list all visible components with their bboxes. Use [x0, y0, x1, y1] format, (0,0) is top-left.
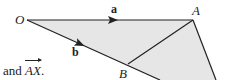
caption-vector-text: AX	[25, 63, 41, 78]
caption-prefix: and	[3, 63, 25, 78]
caption-suffix: .	[41, 63, 44, 78]
caption-text: and AX.	[3, 63, 44, 79]
caption-vector: AX	[25, 63, 41, 78]
vector-overline-arrow-icon	[25, 60, 41, 61]
vector-label-b: b	[72, 45, 79, 59]
point-label-B: B	[119, 66, 127, 80]
point-label-O: O	[15, 12, 25, 27]
vector-label-a: a	[111, 2, 117, 16]
point-label-A: A	[191, 3, 200, 18]
